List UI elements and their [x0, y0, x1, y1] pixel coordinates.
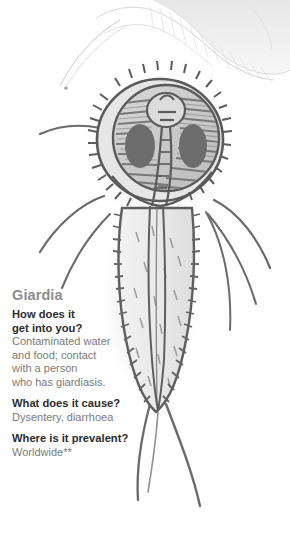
info-text-block: Giardia How does it get into you? Contam…: [12, 286, 154, 467]
giardia-head: [88, 61, 232, 206]
nucleus-right: [179, 124, 207, 168]
answer-transmission-line-2: and food; contact: [12, 349, 154, 362]
answer-transmission-line-3: with a person: [12, 362, 154, 375]
giardia-info-panel: Giardia How does it get into you? Contam…: [0, 0, 290, 544]
qa-group-transmission: How does it get into you? Contaminated w…: [12, 308, 154, 389]
answer-prevalence: Worldwide**: [12, 446, 154, 459]
organism-title: Giardia: [12, 286, 154, 304]
top-fragment-body: [60, 0, 290, 90]
question-where-is-it-prevalent: Where is it prevalent?: [12, 432, 154, 446]
answer-symptoms-line-1: Dysentery, diarrhoea: [12, 411, 154, 424]
qa-group-prevalence: Where is it prevalent? Worldwide**: [12, 432, 154, 459]
answer-symptoms: Dysentery, diarrhoea: [12, 411, 154, 424]
answer-prevalence-line-1: Worldwide**: [12, 446, 154, 459]
answer-transmission: Contaminated water and food; contact wit…: [12, 335, 154, 389]
nucleus-left: [125, 124, 155, 168]
question-how-does-it-get-into-you-line1: How does it: [12, 308, 154, 322]
qa-group-symptoms: What does it cause? Dysentery, diarrhoea: [12, 397, 154, 424]
answer-transmission-line-1: Contaminated water: [12, 335, 154, 348]
question-what-does-it-cause: What does it cause?: [12, 397, 154, 411]
question-how-does-it-get-into-you-line2: get into you?: [12, 322, 154, 336]
answer-transmission-line-4: who has giardiasis.: [12, 376, 154, 389]
